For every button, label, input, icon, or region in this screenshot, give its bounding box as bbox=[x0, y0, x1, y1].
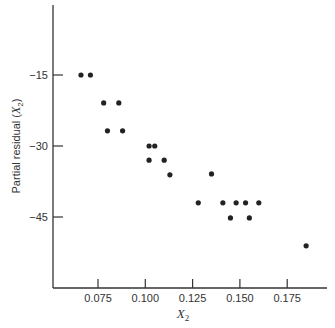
data-point bbox=[152, 143, 157, 148]
y-axis-title-main: Partial residual ( bbox=[10, 114, 22, 194]
x-tick-label: 0.125 bbox=[179, 292, 207, 304]
x-tick-label: 0.175 bbox=[273, 292, 301, 304]
y-axis-title-close: ) bbox=[10, 99, 22, 103]
data-point bbox=[228, 215, 233, 220]
data-point bbox=[167, 172, 172, 177]
x-tick-label: 0.075 bbox=[84, 292, 112, 304]
data-point bbox=[247, 215, 252, 220]
data-point bbox=[101, 100, 106, 105]
data-point bbox=[196, 200, 201, 205]
data-point bbox=[220, 200, 225, 205]
data-point bbox=[234, 200, 239, 205]
data-point bbox=[78, 72, 83, 77]
data-point bbox=[256, 200, 261, 205]
y-tick-label: −30 bbox=[29, 140, 48, 152]
data-point bbox=[120, 128, 125, 133]
data-point bbox=[304, 243, 309, 248]
x-axis-title: X2 bbox=[176, 306, 189, 323]
y-ticks: −15−30−45 bbox=[29, 69, 63, 223]
axes bbox=[53, 5, 327, 288]
y-axis-title: Partial residual (X2) bbox=[9, 99, 25, 194]
data-point bbox=[146, 158, 151, 163]
x-tick-label: 0.100 bbox=[132, 292, 160, 304]
scatter-chart: 0.0750.1000.1250.1500.175 −15−30−45 X2 P… bbox=[0, 0, 335, 328]
data-point bbox=[105, 128, 110, 133]
x-axis-title-sub: 2 bbox=[185, 313, 190, 323]
data-point bbox=[88, 72, 93, 77]
data-point bbox=[209, 171, 214, 176]
x-ticks: 0.0750.1000.1250.1500.175 bbox=[84, 279, 301, 304]
x-tick-label: 0.150 bbox=[226, 292, 254, 304]
data-point bbox=[116, 100, 121, 105]
y-tick-label: −15 bbox=[29, 69, 48, 81]
data-point bbox=[146, 143, 151, 148]
data-points bbox=[78, 72, 308, 248]
y-tick-label: −45 bbox=[29, 211, 48, 223]
data-point bbox=[162, 158, 167, 163]
data-point bbox=[243, 200, 248, 205]
